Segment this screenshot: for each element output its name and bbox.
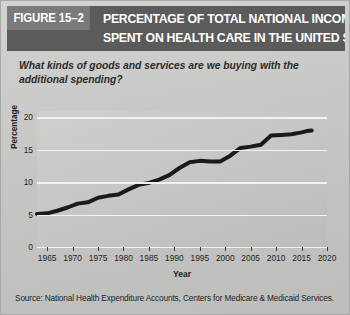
x-tick-label-2020: 2020 [312, 253, 342, 263]
figure-card: FIGURE 15–2 PERCENTAGE OF TOTAL NATIONAL… [0, 0, 350, 315]
x-tick-2015 [302, 247, 303, 251]
gridline-y-5 [37, 215, 327, 216]
x-tick-1990 [174, 247, 175, 251]
x-tick-2005 [251, 247, 252, 251]
chart-line-series [37, 111, 327, 247]
source-note: Source: National Health Expenditure Acco… [15, 293, 345, 303]
figure-number-label: FIGURE 15–2 [7, 6, 90, 30]
x-tick-1980 [123, 247, 124, 251]
y-axis-tick-labels: 05101520 [15, 111, 33, 247]
gridline-y-20 [37, 117, 327, 118]
x-tick-2010 [276, 247, 277, 251]
x-tick-1985 [149, 247, 150, 251]
x-axis-title: Year [37, 269, 327, 279]
x-tick-2000 [225, 247, 226, 251]
x-tick-1975 [98, 247, 99, 251]
x-tick-1965 [47, 247, 48, 251]
figure-header-banner: FIGURE 15–2 PERCENTAGE OF TOTAL NATIONAL… [7, 6, 345, 51]
y-tick-label-15: 15 [19, 145, 33, 155]
data-line [37, 130, 312, 214]
chart-plot-area [37, 111, 327, 247]
x-tick-2020 [327, 247, 328, 251]
y-tick-label-0: 0 [19, 242, 33, 252]
y-tick-label-10: 10 [19, 177, 33, 187]
figure-title-line-1: PERCENTAGE OF TOTAL NATIONAL INCOME [103, 9, 345, 28]
figure-title-line-2: SPENT ON HEALTH CARE IN THE UNITED STATE… [103, 28, 345, 47]
gridline-y-10 [37, 182, 327, 183]
figure-title: PERCENTAGE OF TOTAL NATIONAL INCOME SPEN… [97, 6, 345, 51]
x-tick-1995 [200, 247, 201, 251]
figure-subtitle: What kinds of goods and services are we … [19, 59, 319, 87]
y-tick-label-20: 20 [19, 112, 33, 122]
x-tick-1970 [73, 247, 74, 251]
y-tick-label-5: 5 [19, 210, 33, 220]
gridline-y-15 [37, 150, 327, 151]
